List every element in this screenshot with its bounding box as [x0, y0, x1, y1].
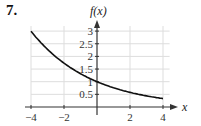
x-tick-label: −2: [58, 111, 70, 123]
x-tick-label: 4: [160, 111, 166, 123]
y-tick-label: 0.5: [79, 88, 93, 100]
y-tick-label: 1.5: [79, 63, 93, 75]
x-axis-arrow-icon: [170, 104, 178, 110]
y-tick-label: 2: [88, 50, 94, 62]
y-axis-label: f(x): [90, 4, 107, 18]
y-tick-label: 2.5: [79, 38, 93, 50]
y-axis-arrow-icon: [94, 20, 100, 28]
x-axis-label: x: [181, 100, 188, 114]
y-tick-label: 3: [88, 25, 94, 37]
chart: −4−2240.511.522.53f(x)x: [0, 0, 201, 126]
x-tick-label: 2: [127, 111, 133, 123]
x-tick-label: −4: [25, 111, 37, 123]
